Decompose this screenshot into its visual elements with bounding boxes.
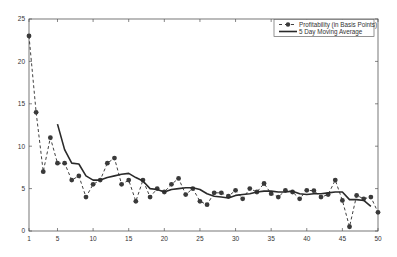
- data-point-marker: [84, 195, 89, 200]
- x-tick-label: 15: [125, 235, 133, 242]
- data-point-marker: [376, 210, 381, 215]
- data-point-marker: [198, 199, 203, 204]
- data-point-marker: [119, 182, 124, 187]
- legend: Profitability (in Basis Points) 5 Day Mo…: [274, 20, 377, 37]
- axes-frame: [29, 19, 378, 231]
- data-point-marker: [233, 188, 238, 193]
- x-tick-label: 50: [374, 235, 382, 242]
- data-point-marker: [319, 195, 324, 200]
- data-point-marker: [247, 186, 252, 191]
- data-point-marker: [297, 196, 302, 201]
- x-axis-ticks: 15101520253035404550: [27, 19, 382, 242]
- data-point-marker: [340, 198, 345, 203]
- data-point-marker: [112, 156, 117, 161]
- x-tick-label: 35: [268, 235, 276, 242]
- data-point-marker: [262, 181, 267, 186]
- data-point-marker: [354, 193, 359, 198]
- legend-marker-icon: [286, 22, 290, 26]
- x-tick-label: 1: [27, 235, 31, 242]
- data-point-marker: [169, 182, 174, 187]
- data-point-marker: [276, 195, 281, 200]
- data-point-marker: [183, 192, 188, 197]
- data-point-marker: [69, 178, 74, 183]
- y-tick-label: 10: [18, 143, 26, 150]
- data-point-marker: [205, 202, 210, 207]
- y-tick-label: 15: [18, 100, 26, 107]
- x-tick-label: 25: [196, 235, 204, 242]
- x-tick-label: 45: [339, 235, 347, 242]
- data-point-marker: [148, 195, 153, 200]
- data-point-marker: [91, 182, 96, 187]
- profitability-line: [29, 36, 378, 227]
- data-point-marker: [126, 178, 131, 183]
- data-point-marker: [48, 135, 53, 140]
- data-point-marker: [34, 110, 39, 115]
- data-point-marker: [212, 190, 217, 195]
- data-point-marker: [304, 188, 309, 193]
- legend-label-moving-average: 5 Day Moving Average: [299, 28, 363, 36]
- plot-area-border: [29, 19, 378, 231]
- data-point-marker: [219, 190, 224, 195]
- line-chart: 0510152025 15101520253035404550 Profitab…: [0, 0, 397, 257]
- x-tick-label: 30: [232, 235, 240, 242]
- data-point-marker: [76, 173, 81, 178]
- series-profitability: [27, 34, 381, 230]
- data-point-marker: [311, 188, 316, 193]
- y-tick-label: 20: [18, 58, 26, 65]
- y-tick-label: 0: [21, 227, 25, 234]
- data-point-marker: [133, 199, 138, 204]
- data-point-marker: [333, 178, 338, 183]
- data-point-marker: [105, 161, 110, 166]
- data-point-marker: [176, 176, 181, 181]
- data-point-marker: [62, 161, 67, 166]
- y-tick-label: 5: [21, 185, 25, 192]
- data-point-marker: [347, 224, 352, 229]
- data-point-marker: [368, 195, 373, 200]
- data-point-marker: [240, 196, 245, 201]
- x-tick-label: 20: [161, 235, 169, 242]
- data-point-marker: [55, 161, 60, 166]
- data-point-marker: [27, 34, 32, 39]
- x-tick-label: 40: [303, 235, 311, 242]
- chart-container: 0510152025 15101520253035404550 Profitab…: [0, 0, 397, 257]
- y-tick-label: 25: [18, 15, 26, 22]
- data-point-marker: [41, 169, 46, 174]
- x-tick-label: 10: [89, 235, 97, 242]
- x-tick-label: 5: [56, 235, 60, 242]
